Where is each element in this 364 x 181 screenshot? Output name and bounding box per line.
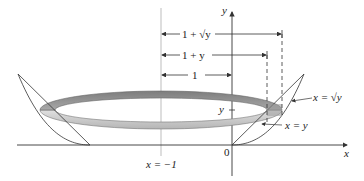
origin-label: 0 xyxy=(224,146,230,158)
leader-sqrt xyxy=(292,98,312,101)
curve-sqrt-label: x = √y xyxy=(312,91,342,103)
cross-section-right xyxy=(267,104,282,116)
leader-line xyxy=(262,124,282,125)
curve-line-label: x = y xyxy=(284,119,308,131)
y-tick-label: y xyxy=(218,103,224,115)
dimension-outer-label: 1 + √y xyxy=(182,28,211,40)
dimension-offset-label: 1 xyxy=(192,69,198,81)
washer-method-diagram: 1 + √y 1 + y 1 y x 0 y x = √y x = y x = … xyxy=(0,0,364,181)
axis-of-rotation-label: x = −1 xyxy=(145,158,177,170)
x-axis-label: x xyxy=(343,147,349,159)
line-reflected xyxy=(18,74,90,145)
y-axis-label: y xyxy=(221,4,227,16)
dimension-inner-label: 1 + y xyxy=(182,49,205,61)
